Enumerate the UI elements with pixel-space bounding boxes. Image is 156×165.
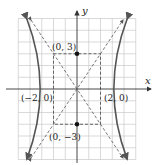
hyperbola-diagram: y x (0, 3) (0, −3) (−2, 0) (2, 0) [0,0,156,165]
label-vertex-left: (−2, 0) [21,93,53,103]
label-vertex-right: (2, 0) [104,93,128,103]
label-point-0-neg3: (0, −3) [49,132,81,142]
point-0-3 [75,51,80,56]
x-axis-label: x [145,75,151,86]
label-point-0-3: (0, 3) [52,42,76,52]
point-0-neg3 [75,122,80,127]
y-axis-label: y [81,5,88,16]
